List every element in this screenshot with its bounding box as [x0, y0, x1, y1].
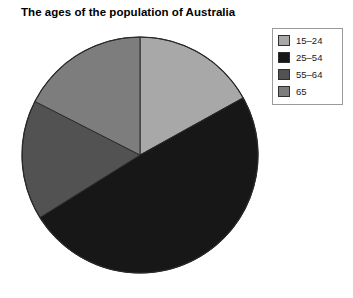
- pie-chart-figure: The ages of the population of Australia …: [0, 0, 353, 298]
- legend-swatch-icon: [278, 86, 290, 97]
- pie-slices: [22, 37, 258, 273]
- legend-item-15-24[interactable]: 15–24: [278, 33, 337, 48]
- legend-item-25-54[interactable]: 25–54: [278, 50, 337, 65]
- legend-swatch-icon: [278, 52, 290, 63]
- legend-item-label: 25–54: [296, 52, 322, 63]
- legend-item-label: 15–24: [296, 35, 322, 46]
- legend-item-55-64[interactable]: 55–64: [278, 67, 337, 82]
- pie-chart-svg: [0, 0, 290, 298]
- pie-chart-plot-area: [0, 0, 290, 298]
- chart-legend: 15–24 25–54 55–64 65: [272, 28, 343, 105]
- legend-swatch-icon: [278, 69, 290, 80]
- legend-item-65[interactable]: 65: [278, 84, 337, 99]
- legend-swatch-icon: [278, 35, 290, 46]
- legend-item-label: 55–64: [296, 69, 322, 80]
- legend-item-label: 65: [296, 86, 307, 97]
